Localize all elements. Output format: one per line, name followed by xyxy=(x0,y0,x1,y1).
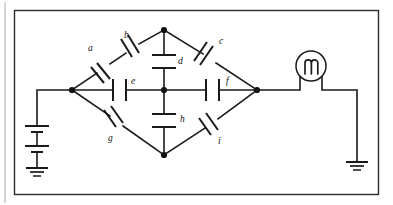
wire-right-node-to-meter xyxy=(257,77,300,90)
node-top xyxy=(161,27,167,33)
wire-cap-i-to-right xyxy=(218,90,257,119)
capacitor-d xyxy=(152,55,176,68)
capacitor-label-a: a xyxy=(88,43,93,53)
capacitor-label-g: g xyxy=(108,133,113,143)
capacitor-g xyxy=(104,106,123,127)
circuit-diagram-figure: a b c d e f g h i xyxy=(0,0,393,205)
wire-cap-a-to-cap-b xyxy=(110,53,126,64)
capacitor-e xyxy=(113,79,126,101)
node-center xyxy=(161,87,167,93)
capacitor-a xyxy=(91,63,110,83)
ground-left-icon xyxy=(26,168,48,176)
wire-cap-c-to-right xyxy=(216,63,257,90)
node-left xyxy=(69,87,75,93)
wire-bottom-to-cap-i xyxy=(164,128,205,155)
capacitor-label-b: b xyxy=(124,30,129,40)
wire-left-node-to-battery xyxy=(37,90,72,126)
node-bottom xyxy=(161,152,167,158)
capacitor-label-c: c xyxy=(219,36,224,46)
wire-meter-to-ground-right xyxy=(322,77,357,162)
capacitor-label-d: d xyxy=(178,56,183,66)
diagram-frame-border xyxy=(15,11,379,195)
wire-cap-b-to-top xyxy=(139,30,164,44)
ground-right-icon xyxy=(346,162,368,170)
capacitor-label-h: h xyxy=(180,114,185,124)
wire-cap-g-to-bottom xyxy=(123,126,164,155)
capacitor-label-i: i xyxy=(218,136,221,146)
capacitor-f xyxy=(206,79,219,101)
capacitor-i xyxy=(199,113,218,135)
capacitor-label-e: e xyxy=(131,76,135,86)
battery-branch xyxy=(25,90,72,176)
capacitor-label-f: f xyxy=(226,76,230,86)
wire-top-to-cap-c xyxy=(164,30,203,54)
meter-branch xyxy=(257,51,368,170)
circuit-schematic-svg: a b c d e f g h i xyxy=(0,0,393,205)
wire-left-to-cap-a xyxy=(72,73,97,90)
capacitor-h xyxy=(152,114,176,127)
